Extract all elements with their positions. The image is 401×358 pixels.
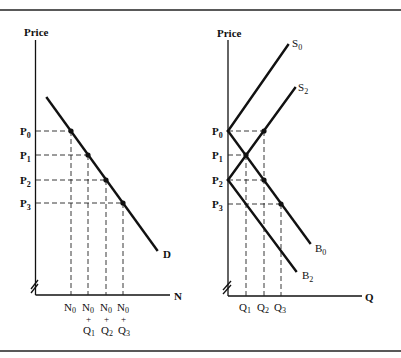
curve-label-s0: S0: [292, 37, 302, 52]
left-x-tick-n0-q3: N0 + Q3: [117, 301, 130, 338]
curve-label-b0: B0: [315, 242, 326, 257]
left-x-tick-n0-q1: N0 + Q1: [82, 301, 95, 338]
svg-text:N0: N0: [117, 301, 129, 315]
curve-label-b2: B2: [302, 269, 313, 284]
point-p1-q1: [243, 152, 248, 157]
svg-text:Q3: Q3: [118, 324, 130, 338]
right-price-label-p3: P3: [212, 198, 223, 213]
svg-text:N0: N0: [82, 301, 94, 315]
point-p0-q2: [261, 128, 266, 133]
right-price-label-p2: P2: [212, 174, 223, 189]
left-x-axis-label: N: [174, 290, 182, 302]
svg-text:+: +: [121, 314, 126, 324]
svg-text:+: +: [86, 314, 91, 324]
left-price-label-p3: P3: [20, 197, 31, 212]
right-x-tick-q3: Q3: [274, 301, 286, 315]
point-p3: [120, 200, 125, 205]
buyer-curve-b2: [228, 180, 296, 271]
point-p1: [85, 152, 90, 157]
right-price-label-p1: P1: [212, 149, 223, 164]
svg-text:+: +: [104, 314, 109, 324]
left-axis-break-icon: [31, 280, 38, 293]
supply-curve-s2: [228, 88, 295, 180]
left-price-label-p2: P2: [20, 174, 31, 189]
svg-text:Q2: Q2: [101, 324, 113, 338]
svg-text:Q1: Q1: [83, 324, 95, 338]
point-p2: [103, 177, 108, 182]
demand-curve-d: [47, 98, 157, 250]
left-guide-lines: [36, 131, 123, 295]
left-price-label-p0: P0: [20, 125, 31, 140]
point-p3-q3: [278, 201, 283, 206]
supply-curve-s0: [228, 45, 288, 131]
right-axis-break-icon: [223, 281, 231, 294]
right-panel-supply-buyer: Price Q S0 S2 B0 B2: [212, 27, 374, 315]
left-y-axis-label: Price: [24, 26, 49, 38]
curve-label-s2: S2: [298, 81, 308, 96]
right-y-axis-label: Price: [217, 27, 242, 39]
left-price-label-p1: P1: [20, 149, 31, 164]
left-x-tick-n0: N0: [64, 301, 76, 315]
buyer-curve-b0: [228, 131, 310, 243]
right-price-label-p0: P0: [212, 125, 223, 140]
svg-text:N0: N0: [100, 301, 112, 315]
right-x-axis-label: Q: [365, 291, 374, 303]
economics-figure: Price N D P0 P1 P2 P3: [0, 0, 401, 358]
svg-text:N0: N0: [64, 301, 76, 315]
right-x-tick-q1: Q1: [239, 301, 251, 315]
right-x-tick-q2: Q2: [257, 301, 269, 315]
demand-curve-label: D: [163, 248, 171, 260]
point-p2-q2: [261, 177, 266, 182]
left-x-tick-n0-q2: N0 + Q2: [100, 301, 113, 338]
point-p0: [68, 128, 73, 133]
left-panel-demand: Price N D P0 P1 P2 P3: [20, 26, 182, 338]
